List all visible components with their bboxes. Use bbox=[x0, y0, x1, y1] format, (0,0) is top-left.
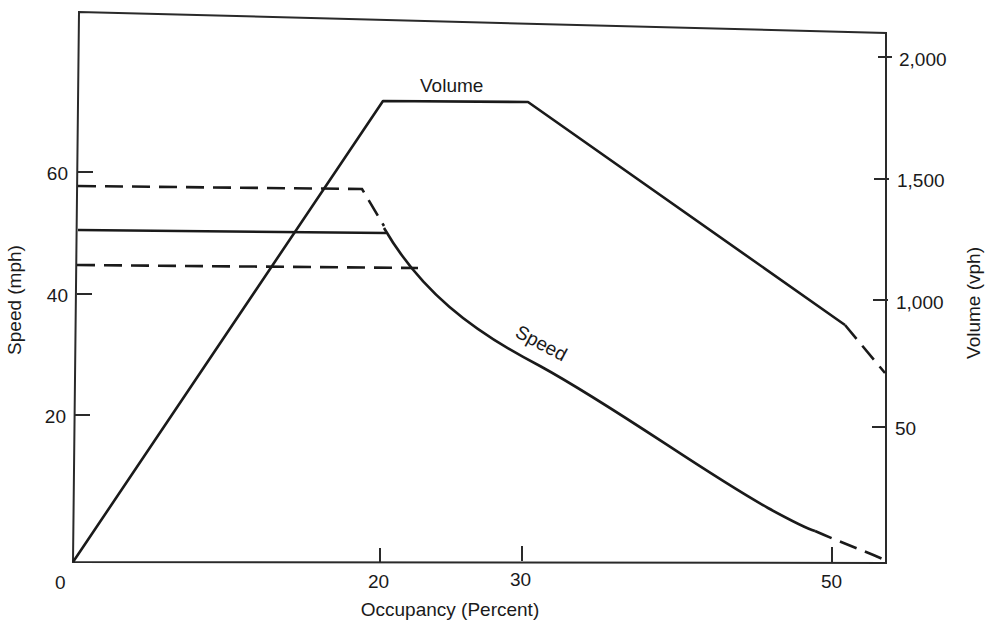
right-y-ticks bbox=[872, 57, 892, 427]
x-axis-title: Occupancy (Percent) bbox=[361, 599, 539, 620]
x-tick-label-50: 50 bbox=[821, 571, 842, 592]
speed-mean-solid bbox=[78, 230, 386, 233]
speed-upper-dashed bbox=[78, 186, 384, 226]
y-axis-right-title: Volume (vph) bbox=[963, 247, 984, 359]
x-tick-label-30: 30 bbox=[510, 569, 531, 590]
speed-free-flow-lines bbox=[77, 186, 418, 268]
speed-curve-dashed bbox=[815, 531, 885, 560]
right-y-tick-labels: 2,000 1,500 1,000 50 bbox=[895, 49, 947, 439]
x-tick-labels: 0 20 30 50 bbox=[55, 569, 842, 593]
speed-lower-dashed bbox=[77, 265, 418, 268]
volume-curve-label: Volume bbox=[420, 75, 483, 96]
occupancy-speed-volume-chart: ...ers), 60 40 20 2,000 1,500 1,000 50 0… bbox=[0, 0, 991, 624]
speed-curve-solid bbox=[384, 228, 815, 531]
speed-series bbox=[384, 228, 885, 560]
speed-curve-label: Speed bbox=[512, 321, 570, 365]
y2-tick-label-50: 50 bbox=[895, 418, 916, 439]
volume-series bbox=[73, 101, 885, 562]
y2-tick-label-1500: 1,500 bbox=[897, 170, 945, 191]
x-tick-label-0: 0 bbox=[55, 572, 66, 593]
y-tick-label-60: 60 bbox=[47, 163, 68, 184]
volume-line-solid bbox=[73, 101, 845, 562]
y-tick-label-40: 40 bbox=[47, 285, 68, 306]
x-tick-label-20: 20 bbox=[368, 571, 389, 592]
left-y-tick-labels: 60 40 20 bbox=[45, 163, 68, 427]
volume-line-dashed bbox=[845, 325, 885, 373]
y2-tick-label-1000: 1,000 bbox=[896, 292, 944, 313]
y-tick-label-20: 20 bbox=[45, 406, 66, 427]
x-ticks bbox=[380, 546, 832, 563]
y2-tick-label-2000: 2,000 bbox=[899, 49, 947, 70]
y-axis-left-title: Speed (mph) bbox=[4, 245, 25, 355]
